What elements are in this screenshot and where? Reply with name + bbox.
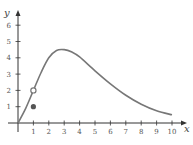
y-axis-label: y bbox=[3, 7, 10, 18]
y-tick-label: 3 bbox=[7, 71, 11, 79]
x-tick-label: 10 bbox=[168, 128, 177, 136]
x-tick-label: 4 bbox=[77, 128, 82, 136]
function-curve bbox=[18, 49, 172, 123]
x-tick-label: 5 bbox=[93, 128, 97, 136]
y-tick-label: 2 bbox=[7, 87, 11, 95]
axes bbox=[8, 10, 187, 132]
x-tick-label: 2 bbox=[47, 128, 51, 136]
x-tick-label: 6 bbox=[108, 128, 113, 136]
filled-dot-point bbox=[31, 104, 36, 109]
x-axis-label: x bbox=[184, 123, 190, 134]
x-tick-label: 1 bbox=[31, 128, 35, 136]
open-circle-point bbox=[31, 88, 36, 93]
y-tick-label: 5 bbox=[7, 38, 11, 46]
y-tick-label: 4 bbox=[7, 54, 12, 62]
ticks: 12345678910123456 bbox=[7, 22, 177, 136]
chart: 12345678910123456 x y bbox=[0, 0, 193, 145]
x-tick-label: 8 bbox=[139, 128, 143, 136]
x-tick-label: 9 bbox=[154, 128, 158, 136]
y-axis-arrow-icon bbox=[16, 10, 21, 16]
special-points bbox=[31, 88, 36, 109]
x-tick-label: 3 bbox=[62, 128, 66, 136]
y-tick-label: 6 bbox=[7, 22, 12, 30]
y-tick-label: 1 bbox=[7, 103, 11, 111]
x-tick-label: 7 bbox=[124, 128, 128, 136]
